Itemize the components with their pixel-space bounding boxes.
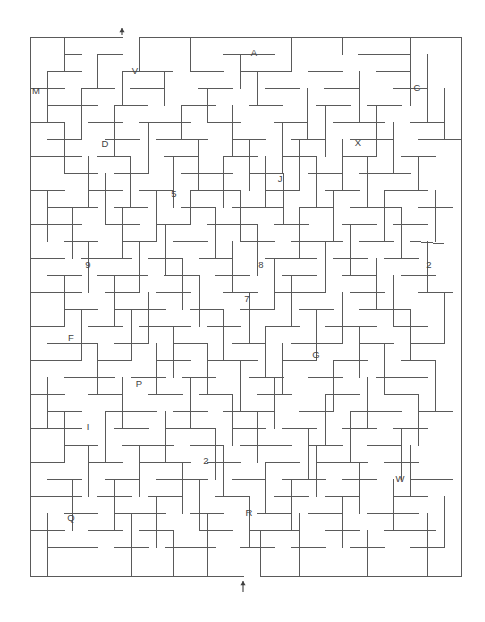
maze-cell-label: 2 (426, 259, 431, 270)
entrance-arrow-icon (119, 28, 124, 35)
maze-cell-label: I (87, 421, 90, 432)
horizontal-walls-group (30, 37, 461, 576)
maze-cell-label: C (414, 82, 421, 93)
maze-cell-label: G (312, 349, 319, 360)
maze-cell-label: 7 (244, 293, 249, 304)
maze-diagram: MVACDXJ59827FGPI2WQR (0, 0, 485, 622)
maze-cell-label: 2 (203, 455, 208, 466)
maze-cell-label: 8 (258, 259, 263, 270)
maze-cell-label: 9 (85, 259, 90, 270)
maze-container: MVACDXJ59827FGPI2WQR (0, 0, 485, 622)
maze-cell-label: W (396, 473, 405, 484)
maze-cell-label: V (132, 65, 139, 76)
maze-cell-label: D (102, 138, 109, 149)
maze-cell-label: P (136, 378, 142, 389)
maze-cell-label: A (251, 47, 258, 58)
exit-arrow-icon (240, 581, 245, 592)
maze-cell-label: J (278, 173, 283, 184)
maze-cell-label: M (32, 85, 40, 96)
vertical-walls-group (30, 37, 461, 576)
maze-cell-label: R (246, 507, 253, 518)
maze-cell-label: Q (67, 512, 74, 523)
maze-cell-label: X (355, 137, 362, 148)
maze-cell-label: 5 (171, 188, 176, 199)
maze-cell-label: F (68, 332, 74, 343)
